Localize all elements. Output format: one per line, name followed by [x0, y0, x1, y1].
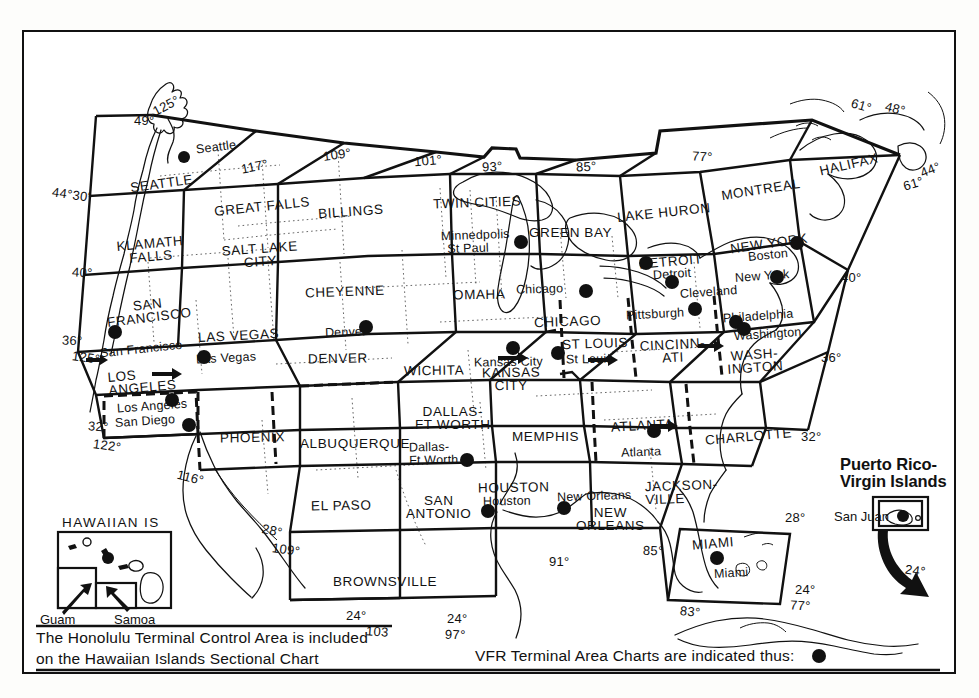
city-chicago: Chicago — [516, 282, 564, 296]
city-dallas-ft-worth: Dallas-Ft Worth — [409, 441, 459, 467]
city-las-vegas: Las Vegas — [196, 350, 257, 366]
zone-wichita[interactable]: WICHITA — [404, 363, 464, 378]
tac-legend-note: VFR Terminal Area Charts are indicated t… — [475, 648, 795, 664]
zone-el-paso[interactable]: EL PASO — [311, 498, 372, 513]
coord-tick: 97° — [445, 628, 466, 642]
coord-tick: 40° — [72, 265, 93, 279]
zone-denver[interactable]: DENVER — [308, 351, 368, 366]
hawaii-inset-title: HAWAIIAN IS — [62, 516, 160, 530]
coord-tick: 77° — [692, 149, 713, 163]
zone-san-antonio[interactable]: SANANTONIO — [406, 494, 471, 520]
city-miami: Miami — [714, 566, 749, 580]
city-pittsburgh: Pittsburgh — [626, 306, 685, 322]
zone-albuquerque[interactable]: ALBUQUERQUE — [300, 437, 410, 451]
coord-tick: 109° — [271, 541, 301, 558]
zone-kansas-city[interactable]: KANSASCITY — [482, 365, 541, 392]
zone-memphis[interactable]: MEMPHIS — [512, 430, 579, 444]
city-minneapolis-st-paul: MinnedpolisSt Paul — [441, 228, 511, 255]
hawaii-inset-guam-label: Guam — [40, 613, 75, 626]
coord-tick: 49° — [134, 114, 155, 127]
coord-tick: 32° — [801, 430, 822, 443]
puerto-rico-inset-city: San Juan — [834, 510, 889, 523]
zone-green-bay[interactable]: GREEN BAY — [529, 226, 612, 240]
zone-dallas-ft-worth[interactable]: DALLAS-FT WORTH — [415, 405, 491, 431]
zone-salt-lake-city[interactable]: SALT LAKECITY — [221, 239, 299, 270]
zone-cincinnati[interactable]: CINCINN-ATI — [639, 336, 706, 365]
city-atlanta: Atlanta — [621, 445, 662, 459]
coord-tick: 83° — [679, 604, 701, 619]
coord-tick: 109° — [322, 146, 352, 163]
city-new-orleans: New Orleans — [557, 489, 632, 504]
coord-tick: 93° — [482, 159, 503, 173]
coord-tick: 85° — [643, 544, 664, 558]
coord-tick: 101° — [413, 153, 442, 168]
zone-st-louis[interactable]: ST LOUIS — [562, 336, 629, 352]
coord-tick: 24° — [346, 609, 367, 622]
coord-tick: 125° — [71, 349, 101, 366]
hawaii-inset-samoa-label: Samoa — [114, 613, 155, 626]
coord-tick: 32° — [88, 419, 109, 433]
city-houston: Houston — [483, 495, 531, 508]
coord-tick: 24° — [904, 563, 926, 579]
zone-phoenix[interactable]: PHOENIX — [220, 430, 285, 445]
zone-twin-cities[interactable]: TWIN CITIES — [433, 194, 522, 211]
city-detroit: Detroit — [653, 267, 692, 282]
zone-chicago[interactable]: CHICAGO — [534, 314, 602, 330]
hawaii-note-line-2: on the Hawaiian Islands Sectional Chart — [36, 651, 319, 667]
zone-los-angeles[interactable]: LOSANGELES — [107, 365, 177, 397]
coord-tick: 77° — [790, 598, 811, 612]
coord-tick: 28° — [785, 511, 806, 524]
city-denver: Denver — [325, 325, 367, 339]
coord-tick: 103 — [366, 624, 389, 639]
zone-omaha[interactable]: OMAHA — [453, 288, 506, 302]
coord-tick: 91° — [549, 555, 570, 568]
coord-tick: 122° — [92, 437, 122, 454]
coord-tick: 40° — [841, 271, 862, 284]
coord-tick: 36° — [62, 333, 83, 347]
city-st-louis: St Louis — [566, 353, 613, 366]
zone-brownsville[interactable]: BROWNSVILLE — [333, 575, 437, 589]
chart-index-page: SEATTLE GREAT FALLS BILLINGS TWIN CITIES… — [0, 0, 979, 698]
zone-atlanta[interactable]: ATLANTA — [611, 417, 675, 434]
puerto-rico-inset-title: Puerto Rico- Virgin Islands — [840, 456, 947, 490]
zone-washington[interactable]: WASH-INGTON — [726, 346, 784, 376]
coord-tick: 28° — [261, 522, 284, 539]
hawaii-note-line-1: The Honolulu Terminal Control Area is in… — [36, 630, 368, 646]
city-kansas-city: Kansas City — [474, 355, 543, 369]
zone-cheyenne[interactable]: CHEYENNE — [305, 284, 385, 300]
coord-tick: 85° — [576, 159, 597, 173]
zone-new-orleans[interactable]: NEWORLEANS — [576, 506, 645, 532]
zone-jacksonville[interactable]: JACKSON-VILLE — [645, 478, 719, 507]
coord-tick: 36° — [821, 351, 842, 364]
coord-tick: 24° — [447, 612, 468, 625]
coord-tick: 24° — [795, 583, 816, 596]
